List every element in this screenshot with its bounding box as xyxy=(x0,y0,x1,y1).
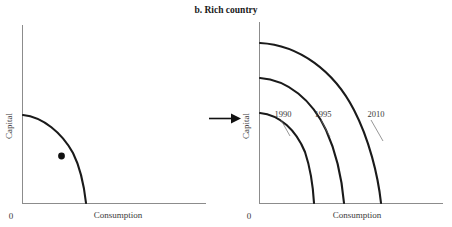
economics-ppf-figure: b. Rich country Capital Consumption 0 xyxy=(0,0,452,227)
left-y-axis-label: Capital xyxy=(4,113,14,139)
right-x-axis-label: Consumption xyxy=(333,210,382,220)
right-origin-label: 0 xyxy=(247,211,252,221)
right-arrow-icon xyxy=(209,114,241,124)
leader-line-1995 xyxy=(321,120,330,137)
curve-label-1990: 1990 xyxy=(275,109,292,119)
left-chart-panel: Capital Consumption 0 xyxy=(4,25,206,221)
leader-line-2010 xyxy=(371,120,383,141)
curve-1995 xyxy=(260,78,344,203)
left-ppf-curve xyxy=(23,115,86,203)
figure-title: b. Rich country xyxy=(194,5,257,15)
production-point-dot xyxy=(58,153,65,160)
curve-label-1995: 1995 xyxy=(315,109,332,119)
curve-label-2010: 2010 xyxy=(368,109,385,119)
right-chart-panel: 1990 1995 2010 Capital Consumption 0 xyxy=(241,22,443,221)
figure-page: b. Rich country Capital Consumption 0 xyxy=(0,0,452,227)
curve-2010 xyxy=(260,43,381,203)
right-y-axis-label: Capital xyxy=(241,113,251,139)
left-origin-label: 0 xyxy=(9,211,14,221)
curve-1990 xyxy=(260,113,314,203)
left-x-axis-label: Consumption xyxy=(94,210,143,220)
